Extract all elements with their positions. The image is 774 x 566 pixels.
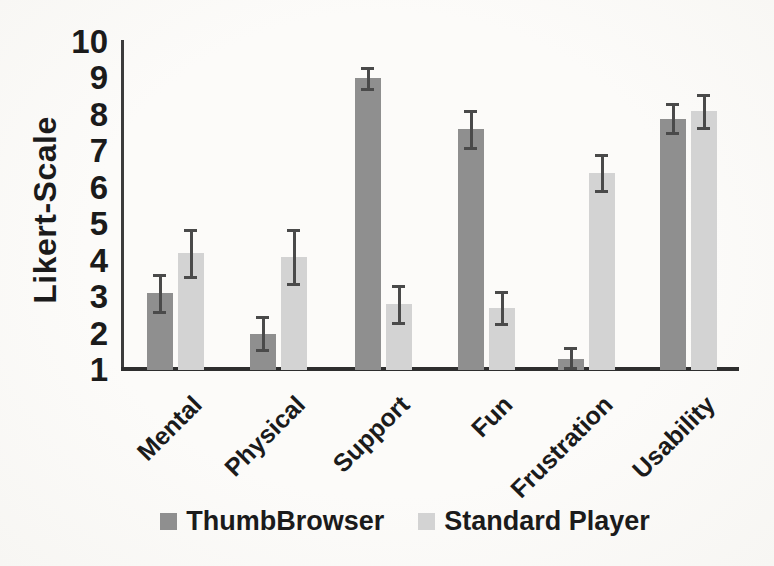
error-bar-cap xyxy=(184,229,197,232)
y-tick-label-7: 7 xyxy=(0,132,108,170)
y-tick-label-6: 6 xyxy=(0,169,108,207)
error-bar-standard-player-support xyxy=(398,286,401,322)
error-bar-standard-player-physical xyxy=(293,230,296,285)
x-tick-label-support: Support xyxy=(327,390,415,478)
legend-label-thumbbrowser: ThumbBrowser xyxy=(186,506,384,537)
y-tick-label-8: 8 xyxy=(0,96,108,134)
legend-item-standard-player: Standard Player xyxy=(418,506,650,537)
x-tick-label-mental: Mental xyxy=(131,390,208,467)
bar-thumbbrowser-usability xyxy=(660,119,686,370)
legend-swatch-thumbbrowser xyxy=(160,513,177,530)
error-bar-cap xyxy=(595,190,608,193)
error-bar-thumbbrowser-mental xyxy=(159,275,162,311)
error-bar-cap xyxy=(564,347,577,350)
error-bar-cap xyxy=(697,94,710,97)
chart-figure: Likert-Scale 12345678910 MentalPhysicalS… xyxy=(0,0,774,566)
error-bar-cap xyxy=(564,367,577,370)
error-bar-cap xyxy=(392,322,405,325)
error-bar-standard-player-fun xyxy=(501,292,504,325)
y-tick-label-5: 5 xyxy=(0,205,108,243)
legend-label-standard-player: Standard Player xyxy=(444,506,650,537)
legend-swatch-standard-player xyxy=(418,513,435,530)
error-bar-cap xyxy=(153,311,166,314)
y-tick-label-3: 3 xyxy=(0,278,108,316)
error-bar-cap xyxy=(464,147,477,150)
error-bar-cap xyxy=(361,67,374,70)
legend: ThumbBrowser Standard Player xyxy=(0,506,774,537)
x-tick-label-frustration: Frustration xyxy=(505,390,619,504)
y-tick-label-1: 1 xyxy=(0,351,108,389)
error-bar-standard-player-mental xyxy=(190,230,193,277)
error-bar-cap xyxy=(697,127,710,130)
bar-standard-player-frustration xyxy=(589,173,615,370)
bar-thumbbrowser-support xyxy=(355,78,381,370)
error-bar-cap xyxy=(256,316,269,319)
bar-standard-player-usability xyxy=(691,111,717,370)
error-bar-cap xyxy=(495,323,508,326)
error-bar-cap xyxy=(464,110,477,113)
error-bar-cap xyxy=(392,285,405,288)
y-tick-label-10: 10 xyxy=(0,23,108,61)
error-bar-thumbbrowser-frustration xyxy=(570,348,573,368)
error-bar-cap xyxy=(256,349,269,352)
bar-thumbbrowser-fun xyxy=(458,129,484,370)
legend-item-thumbbrowser: ThumbBrowser xyxy=(160,506,384,537)
x-axis-line xyxy=(121,367,739,371)
y-tick-label-4: 4 xyxy=(0,242,108,280)
error-bar-cap xyxy=(287,229,300,232)
error-bar-cap xyxy=(361,88,374,91)
error-bar-thumbbrowser-usability xyxy=(672,104,675,133)
x-tick-label-physical: Physical xyxy=(218,390,310,482)
error-bar-cap xyxy=(287,283,300,286)
y-tick-label-9: 9 xyxy=(0,59,108,97)
error-bar-thumbbrowser-support xyxy=(367,68,370,90)
error-bar-thumbbrowser-physical xyxy=(262,317,265,350)
error-bar-standard-player-frustration xyxy=(601,155,604,191)
error-bar-cap xyxy=(666,103,679,106)
error-bar-cap xyxy=(184,276,197,279)
error-bar-standard-player-usability xyxy=(703,95,706,128)
error-bar-thumbbrowser-fun xyxy=(470,111,473,147)
x-tick-label-usability: Usability xyxy=(626,390,720,484)
error-bar-cap xyxy=(595,154,608,157)
error-bar-cap xyxy=(666,132,679,135)
error-bar-cap xyxy=(495,291,508,294)
y-axis-line xyxy=(121,40,124,371)
x-tick-label-fun: Fun xyxy=(466,390,519,443)
y-tick-label-2: 2 xyxy=(0,315,108,353)
error-bar-cap xyxy=(153,274,166,277)
